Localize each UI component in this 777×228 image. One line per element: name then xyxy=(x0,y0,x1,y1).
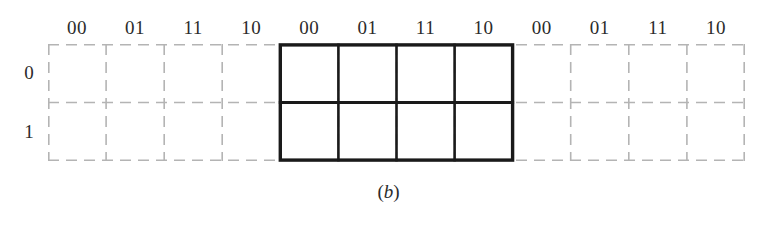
kmap-cell-r0-c10[interactable] xyxy=(629,44,687,103)
kmap-cell-r0-c8[interactable] xyxy=(513,44,571,103)
caption-letter: b xyxy=(384,181,394,202)
kmap-cell-r1-c8[interactable] xyxy=(513,103,571,162)
column-header-label-8: 00 xyxy=(513,14,571,42)
row-header-label-0: 0 xyxy=(14,44,44,103)
kmap-cell-layer xyxy=(48,44,745,161)
column-header-label-11: 10 xyxy=(687,14,745,42)
kmap-cell-r0-c0[interactable] xyxy=(48,44,106,103)
column-header-row: 00 01 11 10 00 01 11 10 00 01 11 10 xyxy=(48,14,745,42)
kmap-cell-r1-c10[interactable] xyxy=(629,103,687,162)
column-header-label-10: 11 xyxy=(629,14,687,42)
kmap-cell-r1-c9[interactable] xyxy=(571,103,629,162)
kmap-grid xyxy=(48,44,745,161)
caption-close-paren: ) xyxy=(393,181,399,202)
column-header-label-1: 01 xyxy=(106,14,164,42)
kmap-cell-r1-c11[interactable] xyxy=(687,103,745,162)
column-header-label-2: 11 xyxy=(164,14,222,42)
kmap-cell-r0-c9[interactable] xyxy=(571,44,629,103)
kmap-cell-r1-c4[interactable] xyxy=(280,103,338,162)
column-header-label-9: 01 xyxy=(571,14,629,42)
column-header-label-7: 10 xyxy=(455,14,513,42)
karnaugh-map-figure: 00 01 11 10 00 01 11 10 00 01 11 10 0 1 xyxy=(0,0,777,228)
kmap-cell-r1-c1[interactable] xyxy=(106,103,164,162)
kmap-cell-r1-c6[interactable] xyxy=(396,103,454,162)
figure-caption: (b) xyxy=(0,181,777,203)
row-header-column: 0 1 xyxy=(14,44,44,161)
kmap-cell-r0-c5[interactable] xyxy=(338,44,396,103)
kmap-cell-r0-c4[interactable] xyxy=(280,44,338,103)
kmap-cell-r1-c3[interactable] xyxy=(222,103,280,162)
kmap-cell-r0-c3[interactable] xyxy=(222,44,280,103)
kmap-cell-r0-c7[interactable] xyxy=(455,44,513,103)
kmap-cell-r1-c0[interactable] xyxy=(48,103,106,162)
kmap-cell-r1-c2[interactable] xyxy=(164,103,222,162)
kmap-cell-r0-c11[interactable] xyxy=(687,44,745,103)
column-header-label-5: 01 xyxy=(338,14,396,42)
kmap-cell-r1-c7[interactable] xyxy=(455,103,513,162)
column-header-label-3: 10 xyxy=(222,14,280,42)
kmap-cell-r0-c6[interactable] xyxy=(396,44,454,103)
column-header-label-4: 00 xyxy=(280,14,338,42)
column-header-label-0: 00 xyxy=(48,14,106,42)
kmap-cell-r1-c5[interactable] xyxy=(338,103,396,162)
row-header-label-1: 1 xyxy=(14,103,44,162)
kmap-cell-r0-c2[interactable] xyxy=(164,44,222,103)
kmap-cell-r0-c1[interactable] xyxy=(106,44,164,103)
column-header-label-6: 11 xyxy=(396,14,454,42)
